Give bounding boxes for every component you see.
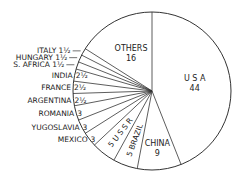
slice-value-mexico: 3 <box>91 135 96 144</box>
pie-chart: U S A44CHINA95 BRAZIL5 U S S R3MEXICO3YU… <box>0 0 235 180</box>
slice-value-china: 9 <box>155 149 160 158</box>
slice-value-others: 16 <box>126 54 136 63</box>
slice-label-mexico: MEXICO <box>58 135 88 144</box>
slice-value-argentina: 2½ <box>74 96 86 105</box>
slice-value-u-s-a: 44 <box>190 84 200 93</box>
slice-value-india: 2½ <box>76 71 88 80</box>
slice-label-india: INDIA <box>52 71 74 80</box>
slice-value-romania: 3 <box>77 109 82 118</box>
slice-label-china: CHINA <box>145 139 171 148</box>
slice-value-france: 2½ <box>74 83 86 92</box>
slice-label-argentina: ARGENTINA <box>27 96 72 105</box>
slice-value-yugoslavia: 3 <box>83 123 88 132</box>
slice-label-italy: ITALY 1½ <box>37 46 71 55</box>
pie-chart-svg: U S A44CHINA95 BRAZIL5 U S S R3MEXICO3YU… <box>0 0 235 180</box>
slice-label-others: OTHERS <box>115 44 148 53</box>
slice-label-u-s-a: U S A <box>184 74 206 83</box>
slice-label-france: FRANCE <box>41 83 71 92</box>
slice-label-yugoslavia: YUGOSLAVIA <box>31 123 81 132</box>
slice-label-romania: ROMANIA <box>38 109 75 118</box>
